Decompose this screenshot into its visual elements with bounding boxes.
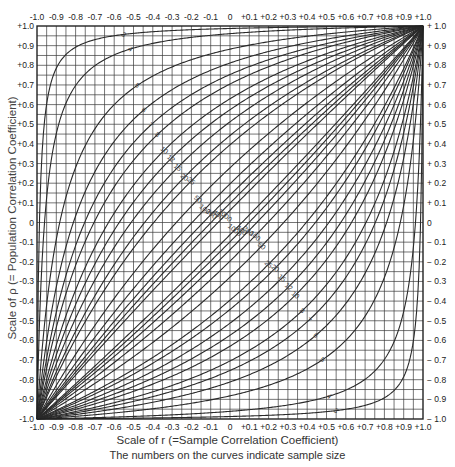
- x-tick-label-bottom: +0.8: [376, 422, 393, 432]
- y-axis-title: Scale of ρ (= Population Correlation Coe…: [6, 68, 18, 368]
- y-tick-label-left: +0.8: [17, 60, 34, 70]
- y-tick-label-right: − 0.7: [427, 355, 446, 365]
- y-tick-label-right: − 0.6: [427, 335, 446, 345]
- x-tick-label-top: -0.5: [126, 12, 141, 22]
- y-tick-label-right: − 0.8: [427, 375, 446, 385]
- y-tick-label-left: -0.5: [19, 316, 34, 326]
- y-tick-label-right: + 0.6: [427, 100, 446, 110]
- y-tick-label-right: + 0.5: [427, 119, 446, 129]
- y-tick-label-right: + 0.7: [427, 80, 446, 90]
- x-tick-label-top: +0.1: [241, 12, 258, 22]
- x-tick-label-bottom: +0.9: [395, 422, 412, 432]
- curve-label-n5-upper: 5: [134, 81, 142, 89]
- y-tick-label-right: + 0.3: [427, 159, 446, 169]
- x-tick-label-top: -0.8: [68, 12, 83, 22]
- confidence-belt-chart: 3344556677881010121215152020252550501001…: [0, 0, 455, 467]
- x-tick-label-top: +0.8: [376, 12, 393, 22]
- x-tick-label-top: +0.2: [260, 12, 277, 22]
- x-tick-label-top: -0.1: [203, 12, 218, 22]
- y-tick-label-right: + 0.4: [427, 139, 446, 149]
- y-tick-label-left: -0.4: [19, 296, 34, 306]
- x-tick-label-top: -0.7: [88, 12, 103, 22]
- y-tick-label-left: -0.7: [19, 355, 34, 365]
- y-axis-right-ticks: + 1.0+ 0.9+ 0.8+ 0.7+ 0.6+ 0.5+ 0.4+ 0.3…: [427, 21, 446, 424]
- y-tick-label-left: -0.8: [19, 375, 34, 385]
- chart-caption: The numbers on the curves indicate sampl…: [0, 449, 455, 461]
- y-tick-label-left: -0.1: [19, 237, 34, 247]
- x-tick-label-top: +0.3: [280, 12, 297, 22]
- y-tick-label-left: -1.0: [19, 414, 34, 424]
- x-tick-label-bottom: +0.2: [260, 422, 277, 432]
- y-tick-label-right: − 0.1: [427, 237, 446, 247]
- x-tick-label-bottom: -0.8: [68, 422, 83, 432]
- y-tick-label-left: +0.2: [17, 178, 34, 188]
- y-tick-label-left: +1.0: [17, 21, 34, 31]
- y-tick-label-left: -0.3: [19, 276, 34, 286]
- y-tick-label-left: 0: [29, 218, 34, 228]
- y-tick-label-right: + 1.0: [427, 21, 446, 31]
- x-tick-label-bottom: -0.2: [184, 422, 199, 432]
- x-tick-label-bottom: +0.7: [357, 422, 374, 432]
- x-tick-label-bottom: -0.6: [107, 422, 122, 432]
- y-tick-label-left: +0.5: [17, 119, 34, 129]
- x-tick-label-top: +0.9: [395, 12, 412, 22]
- x-tick-label-top: +0.7: [357, 12, 374, 22]
- x-tick-label-bottom: +0.5: [318, 422, 335, 432]
- y-tick-label-left: -0.2: [19, 257, 34, 267]
- x-tick-label-bottom: -0.1: [203, 422, 218, 432]
- x-axis-top-ticks: -1.0-0.9-0.8-0.7-0.6-0.5-0.4-0.3-0.2-0.1…: [30, 12, 432, 22]
- x-tick-label-top: +0.4: [299, 12, 316, 22]
- x-tick-label-bottom: -0.9: [49, 422, 64, 432]
- x-tick-label-bottom: +0.3: [280, 422, 297, 432]
- y-tick-label-right: − 0.9: [427, 394, 446, 404]
- y-tick-label-right: + 0.9: [427, 41, 446, 51]
- x-tick-label-bottom: -0.4: [145, 422, 160, 432]
- x-tick-label-bottom: -0.7: [88, 422, 103, 432]
- x-tick-label-top: 0: [228, 12, 233, 22]
- x-tick-label-bottom: +0.1: [241, 422, 258, 432]
- x-axis-title: Scale of r (=Sample Correlation Coeffici…: [0, 434, 455, 446]
- x-tick-label-bottom: +0.4: [299, 422, 316, 432]
- curve-label-n5-lower: 5: [319, 356, 327, 364]
- y-tick-label-left: -0.9: [19, 394, 34, 404]
- y-tick-label-right: 0: [427, 218, 432, 228]
- x-tick-label-bottom: -0.3: [165, 422, 180, 432]
- x-axis-bottom-ticks: -1.0-0.9-0.8-0.7-0.6-0.5-0.4-0.3-0.2-0.1…: [30, 422, 432, 432]
- y-tick-label-left: +0.9: [17, 41, 34, 51]
- x-tick-label-top: +0.5: [318, 12, 335, 22]
- y-tick-label-left: +0.6: [17, 100, 34, 110]
- x-tick-label-top: -0.6: [107, 12, 122, 22]
- x-tick-label-top: +0.6: [337, 12, 354, 22]
- x-tick-label-top: -0.9: [49, 12, 64, 22]
- x-tick-label-bottom: 0: [228, 422, 233, 432]
- y-tick-label-left: +0.1: [17, 198, 34, 208]
- y-tick-label-right: − 0.3: [427, 276, 446, 286]
- x-tick-label-top: -0.4: [145, 12, 160, 22]
- y-tick-label-right: − 0.2: [427, 257, 446, 267]
- x-tick-label-top: -0.2: [184, 12, 199, 22]
- y-tick-label-right: − 0.4: [427, 296, 446, 306]
- y-tick-label-left: +0.4: [17, 139, 34, 149]
- y-tick-label-left: -0.6: [19, 335, 34, 345]
- x-tick-label-bottom: -0.5: [126, 422, 141, 432]
- x-tick-label-top: -0.3: [165, 12, 180, 22]
- y-tick-label-right: − 0.5: [427, 316, 446, 326]
- y-tick-label-right: + 0.2: [427, 178, 446, 188]
- y-tick-label-right: − 1.0: [427, 414, 446, 424]
- x-tick-label-bottom: +0.6: [337, 422, 354, 432]
- y-tick-label-left: +0.7: [17, 80, 34, 90]
- y-tick-label-right: + 0.1: [427, 198, 446, 208]
- y-tick-label-right: + 0.8: [427, 60, 446, 70]
- y-axis-left-ticks: +1.0+0.9+0.8+0.7+0.6+0.5+0.4+0.3+0.2+0.1…: [17, 21, 34, 424]
- y-tick-label-left: +0.3: [17, 159, 34, 169]
